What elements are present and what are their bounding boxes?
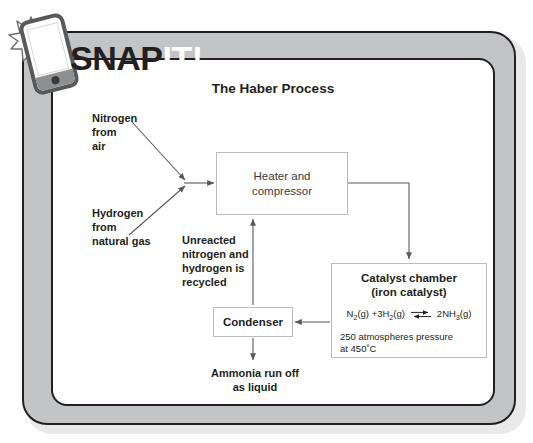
label-recycled-line4: recycled: [182, 276, 227, 288]
catalyst-conditions-line2: at 450˚C: [340, 343, 376, 354]
arrow-nitrogen-input: [132, 122, 185, 180]
equilibrium-arrows-icon: [410, 309, 432, 320]
label-unreacted-recycled: Unreacted nitrogen and hydrogen is recyc…: [182, 233, 249, 289]
heater-label: Heater and compressor: [252, 169, 312, 199]
label-nitrogen-from-air: Nitrogen from air: [92, 111, 137, 153]
catalyst-conditions-line1: 250 atmospheres pressure: [340, 331, 453, 342]
label-nitrogen-line3: air: [92, 140, 105, 152]
label-hydrogen-line1: Hydrogen: [92, 207, 143, 219]
heater-label-line2: compressor: [252, 185, 312, 197]
label-ammonia-line1: Ammonia run off: [211, 367, 299, 379]
arrow-heater-to-catalyst: [348, 183, 409, 259]
label-hydrogen-line2: from: [92, 221, 116, 233]
label-recycled-line3: hydrogen is: [182, 262, 244, 274]
catalyst-heading-line2: (iron catalyst): [371, 286, 446, 298]
label-nitrogen-line2: from: [92, 126, 116, 138]
label-ammonia-run-off: Ammonia run off as liquid: [155, 366, 355, 394]
heater-label-line1: Heater and: [254, 170, 311, 182]
equation-reactants: N2(g) +3H2(g): [347, 308, 405, 321]
condenser-label: Condenser: [223, 316, 283, 328]
catalyst-conditions: 250 atmospheres pressure at 450˚C: [340, 331, 478, 356]
label-recycled-line2: nitrogen and: [182, 248, 249, 260]
catalyst-heading-line1: Catalyst chamber: [361, 272, 457, 284]
label-hydrogen-line3: natural gas: [92, 235, 151, 247]
node-heater-and-compressor[interactable]: Heater and compressor: [216, 152, 348, 215]
haber-process-diagram: The Haber Process Heater and compre: [51, 58, 495, 406]
label-recycled-line1: Unreacted: [182, 234, 236, 246]
catalyst-equation: N2(g) +3H2(g) 2NH3(g): [340, 308, 478, 321]
label-hydrogen-from-natural-gas: Hydrogen from natural gas: [92, 206, 151, 248]
label-nitrogen-line1: Nitrogen: [92, 112, 137, 124]
node-condenser[interactable]: Condenser: [213, 307, 293, 337]
catalyst-heading: Catalyst chamber (iron catalyst): [340, 271, 478, 299]
node-catalyst-chamber[interactable]: Catalyst chamber (iron catalyst) N2(g) +…: [331, 263, 487, 358]
equation-products: 2NH3(g): [437, 308, 472, 321]
label-ammonia-line2: as liquid: [233, 381, 278, 393]
